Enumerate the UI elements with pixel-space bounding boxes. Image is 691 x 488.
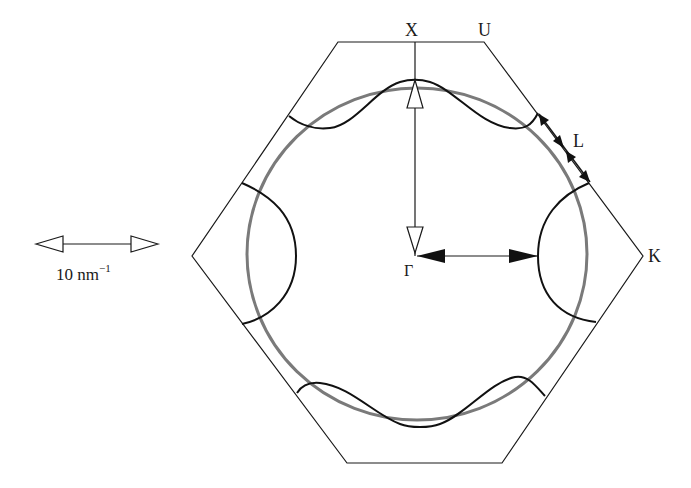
scale-bar-left-arrow-icon [36, 236, 63, 252]
label-X: X [405, 20, 418, 40]
scale-bar-right-arrow-icon [131, 236, 158, 252]
label-K: K [648, 246, 661, 266]
label-Gamma: Γ [404, 262, 413, 279]
free-electron-sphere [247, 88, 587, 420]
label-U: U [478, 20, 491, 40]
open-arrowhead-down-icon [407, 227, 423, 253]
scale-bar-label: 10 nm−1 [56, 262, 111, 284]
fermi-surface-left [242, 183, 296, 324]
scale-bar-exponent: −1 [99, 262, 111, 274]
scale-bar-value: 10 nm [56, 265, 99, 284]
brillouin-zone-diagram: X U L K Γ 10 nm−1 [0, 0, 691, 488]
open-arrowhead-up-icon [407, 80, 423, 108]
filled-arrowhead-left-icon [417, 249, 445, 263]
filled-arrowhead-right-icon [509, 249, 538, 263]
label-L: L [573, 131, 584, 151]
